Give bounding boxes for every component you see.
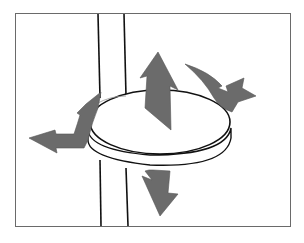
diagram-canvas [0,0,304,243]
disc-on-pole-diagram [0,0,304,243]
